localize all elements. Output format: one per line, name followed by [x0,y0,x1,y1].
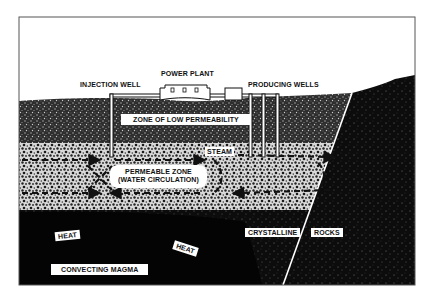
permeable-zone-line2: (WATER CIRCULATION) [118,176,199,184]
injection-well-pipe [110,94,113,157]
power-plant-building [160,85,210,100]
convecting-magma-label: CONVECTING MAGMA [51,264,148,275]
power-plant-label: POWER PLANT [161,70,214,77]
permeable-zone-line1: PERMEABLE ZONE [118,168,199,176]
auxiliary-building [225,88,242,100]
steam-label: STEAM [205,147,234,156]
producing-well-pipe-2 [262,94,265,157]
rocks-label: ROCKS [311,228,343,237]
producing-wells-label: PRODUCING WELLS [248,81,319,88]
permeable-zone-label: PERMEABLE ZONE (WATER CIRCULATION) [110,165,207,188]
low-permeability-label: ZONE OF LOW PERMEABILITY [121,114,251,125]
producing-well-pipe-3 [276,94,279,157]
producing-well-pipe-1 [249,94,252,157]
injection-well-label: INJECTION WELL [80,81,141,88]
geothermal-diagram: INJECTION WELL POWER PLANT PRODUCING WEL… [0,0,432,301]
crystalline-label: CRYSTALLINE [245,228,300,237]
